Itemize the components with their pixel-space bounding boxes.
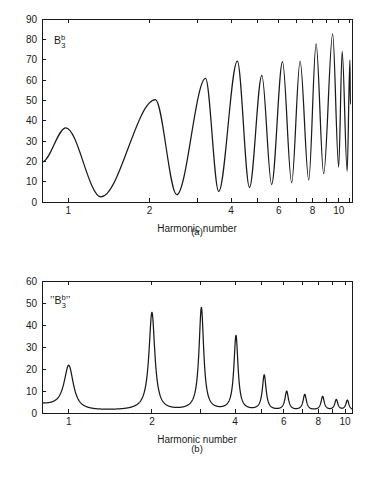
data-curve: [42, 34, 350, 197]
y-tick-label: 0: [31, 408, 37, 419]
y-tick-label: 10: [26, 176, 38, 187]
series-label: ’’Bb3’’: [50, 293, 70, 310]
y-tick-label: 70: [26, 54, 38, 65]
x-tick-label: 6: [281, 416, 287, 427]
chart-b-svg: 01020304050601246810’’Bb3’’Harmonic numb…: [0, 240, 378, 478]
x-tick-label: 2: [147, 205, 153, 216]
y-tick-label: 10: [26, 386, 38, 397]
chart-panel-a: 01020304050607080901246810Bb3Harmonic nu…: [0, 0, 378, 240]
y-tick-label: 30: [26, 136, 38, 147]
y-tick-label: 80: [26, 34, 38, 45]
y-tick-label: 30: [26, 342, 38, 353]
x-tick-label: 1: [65, 205, 71, 216]
panel-caption: (a): [191, 226, 203, 237]
x-tick-label: 8: [310, 205, 316, 216]
x-tick-label: 6: [276, 205, 282, 216]
x-tick-label: 10: [339, 416, 351, 427]
chart-a-svg: 01020304050607080901246810Bb3Harmonic nu…: [0, 0, 378, 240]
y-tick-label: 40: [26, 115, 38, 126]
series-label: Bb3: [54, 33, 65, 50]
x-tick-label: 4: [232, 416, 238, 427]
y-tick-label: 40: [26, 320, 38, 331]
y-tick-label: 50: [26, 298, 38, 309]
y-tick-label: 20: [26, 156, 38, 167]
x-tick-label: 8: [315, 416, 321, 427]
x-tick-label: 4: [228, 205, 234, 216]
y-tick-label: 50: [26, 95, 38, 106]
y-tick-label: 60: [26, 75, 38, 86]
chart-panel-b: 01020304050601246810’’Bb3’’Harmonic numb…: [0, 240, 378, 478]
y-tick-label: 90: [26, 14, 38, 25]
panel-caption: (b): [191, 443, 203, 454]
x-tick-label: 1: [66, 416, 72, 427]
data-curve: [42, 308, 352, 410]
y-tick-label: 0: [31, 197, 37, 208]
x-tick-label: 2: [149, 416, 155, 427]
y-tick-label: 20: [26, 364, 38, 375]
x-tick-label: 10: [333, 205, 345, 216]
figure-container: 01020304050607080901246810Bb3Harmonic nu…: [0, 0, 378, 478]
y-tick-label: 60: [26, 276, 38, 287]
